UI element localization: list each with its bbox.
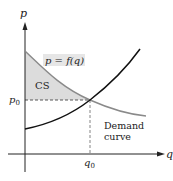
demand-curve-label-line2: curve bbox=[104, 131, 131, 142]
cs-label: CS bbox=[35, 80, 50, 91]
y-axis-arrow-icon bbox=[23, 22, 28, 30]
y-axis-label: p bbox=[20, 7, 27, 20]
x-axis-label: q bbox=[166, 148, 173, 161]
consumer-surplus-diagram: p q p = f(q) CS p0 q0 Demand curve bbox=[0, 0, 173, 181]
diagram-canvas: p q p = f(q) CS p0 q0 Demand curve bbox=[0, 0, 173, 181]
q0-label: q0 bbox=[84, 157, 95, 170]
p0-subscript: 0 bbox=[15, 99, 19, 107]
demand-curve-label-line1: Demand bbox=[104, 120, 144, 131]
demand-equation-label: p = f(q) bbox=[45, 55, 84, 66]
x-axis-arrow-icon bbox=[157, 152, 165, 157]
q0-subscript: 0 bbox=[90, 162, 94, 170]
p0-label: p0 bbox=[9, 94, 20, 107]
